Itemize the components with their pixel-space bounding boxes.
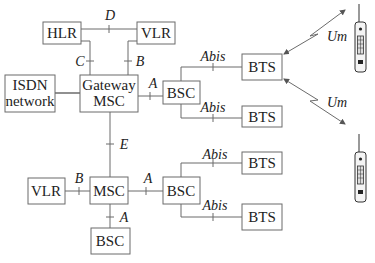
node-bsc-top: BSC xyxy=(163,81,200,104)
node-bts1-label: BTS xyxy=(248,59,276,75)
node-vlr-bottom: VLR xyxy=(28,178,65,204)
iface-abis1-label: Abis xyxy=(200,49,226,64)
iface-um2-label: Um xyxy=(327,95,347,110)
link-abis3 xyxy=(181,163,242,177)
node-vlr-top: VLR xyxy=(137,22,175,44)
node-gmsc-line2: MSC xyxy=(93,93,125,109)
node-hlr-label: HLR xyxy=(47,25,77,41)
node-gateway-msc: Gateway MSC xyxy=(80,75,138,112)
node-bsc-right-label: BSC xyxy=(167,183,195,199)
mobile-phone-icon xyxy=(355,4,366,72)
node-bsc-bottom-label: BSC xyxy=(96,233,124,249)
iface-um1-label: Um xyxy=(327,29,347,44)
node-bts-4: BTS xyxy=(242,204,282,230)
node-bsc-top-label: BSC xyxy=(167,85,195,101)
mobile-phone-icon xyxy=(355,134,366,202)
iface-a-top-label: A xyxy=(148,76,158,91)
node-bts-3: BTS xyxy=(242,152,282,174)
node-bts4-label: BTS xyxy=(248,209,276,225)
iface-b-top-label: B xyxy=(136,54,145,69)
iface-d-label: D xyxy=(104,8,115,23)
node-msc: MSC xyxy=(90,177,128,204)
iface-c-label: C xyxy=(75,54,85,69)
iface-abis2-label: Abis xyxy=(200,100,226,115)
link-abis1 xyxy=(181,67,242,81)
iface-b-bottom-label: B xyxy=(75,171,84,186)
node-vlr-top-label: VLR xyxy=(141,25,171,41)
node-bts-2: BTS xyxy=(242,106,282,127)
node-bsc-bottom: BSC xyxy=(91,228,130,254)
gsm-architecture-diagram: HLR VLR ISDN network Gateway MSC BSC BTS… xyxy=(0,0,375,263)
iface-a-bottom-label: A xyxy=(119,210,129,225)
node-msc-label: MSC xyxy=(93,183,125,199)
iface-e-label: E xyxy=(119,137,129,152)
node-bsc-right: BSC xyxy=(163,177,200,204)
iface-abis4-label: Abis xyxy=(202,198,228,213)
node-vlr-bottom-label: VLR xyxy=(31,183,61,199)
node-bts-1: BTS xyxy=(242,54,282,80)
node-bts2-label: BTS xyxy=(248,109,276,125)
node-isdn-network: ISDN network xyxy=(5,75,55,112)
iface-abis3-label: Abis xyxy=(202,147,228,162)
iface-a-right-label: A xyxy=(143,171,153,186)
node-bts3-label: BTS xyxy=(248,155,276,171)
node-isdn-line2: network xyxy=(5,93,55,109)
node-hlr: HLR xyxy=(43,22,81,44)
node-gmsc-line1: Gateway xyxy=(82,77,136,93)
node-isdn-line1: ISDN xyxy=(12,77,47,93)
